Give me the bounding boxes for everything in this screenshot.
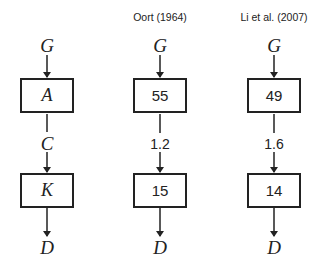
column-2-box-top-value: 55 xyxy=(152,87,169,104)
column-3-middle-value: 1.6 xyxy=(264,137,283,151)
column-2-box-top: 55 xyxy=(133,78,187,113)
column-3-box-bottom-value: 14 xyxy=(266,182,283,199)
column-2-box-bottom: 15 xyxy=(133,173,187,208)
column-3-box-top: 49 xyxy=(247,78,301,113)
column-2-box-bottom-value: 15 xyxy=(152,182,169,199)
column-3-input-label: G xyxy=(267,36,281,55)
column-2-middle-value: 1.2 xyxy=(150,137,169,151)
column-1-middle-label: C xyxy=(41,134,54,153)
flow-diagram: G A C K D Oort (1964) G 55 1.2 15 D Li e… xyxy=(0,0,322,268)
column-1-output-label: D xyxy=(40,238,54,257)
column-1-box-bottom: K xyxy=(20,173,74,208)
column-1-input-label: G xyxy=(40,36,54,55)
column-3-title: Li et al. (2007) xyxy=(240,11,307,23)
column-3-output-label: D xyxy=(267,238,281,257)
column-3-box-top-value: 49 xyxy=(266,87,283,104)
column-1-box-top: A xyxy=(20,78,74,113)
column-1-box-bottom-label: K xyxy=(41,180,53,201)
column-2-output-label: D xyxy=(153,238,167,257)
column-2-input-label: G xyxy=(153,36,167,55)
column-3-box-bottom: 14 xyxy=(247,173,301,208)
column-1-box-top-label: A xyxy=(42,85,53,106)
column-2-title: Oort (1964) xyxy=(133,11,187,23)
